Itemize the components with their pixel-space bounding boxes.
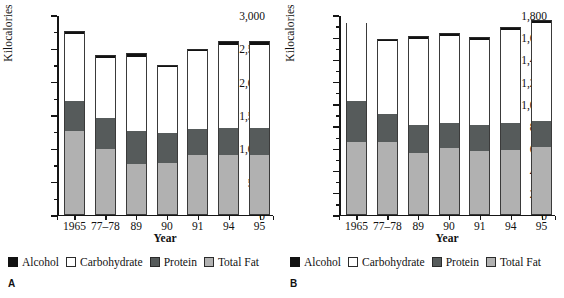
bar-segment-total-fat [64, 131, 85, 214]
y-axis-line-a [57, 16, 59, 216]
legend-swatch-total-fat-icon [486, 257, 496, 267]
y-tick-major [51, 149, 57, 150]
y-tick-minor [336, 182, 340, 183]
bar-segment-total-fat [126, 164, 147, 215]
panel-letter-a: A [8, 278, 15, 289]
y-tick-minor [336, 138, 340, 139]
bar-segment-alcohol [531, 20, 552, 23]
bar-segment-protein [126, 131, 147, 164]
bar-1965 [64, 31, 85, 215]
bar-segment-carbohydrate [346, 23, 367, 101]
x-tick-label: 1965 [63, 220, 86, 232]
x-tick-label: 95 [536, 220, 548, 232]
y-tick-minor [54, 32, 58, 33]
y-tick-minor [54, 165, 58, 166]
bar-segment-alcohol [64, 31, 85, 34]
bar-segment-carbohydrate [469, 40, 490, 125]
bar-segment-carbohydrate [218, 45, 239, 128]
bar-segment-carbohydrate [95, 58, 116, 118]
bar-segment-protein [157, 133, 178, 162]
bar-segment-carbohydrate [500, 30, 521, 124]
y-tick-major [333, 82, 339, 83]
bar-segment-carbohydrate [126, 57, 147, 132]
bar-segment-carbohydrate [64, 34, 85, 101]
bar-91 [187, 49, 208, 215]
legend-swatch-carbohydrate-icon [348, 257, 358, 267]
y-tick-minor [336, 93, 340, 94]
legend-b: Alcohol Carbohydrate Protein Total Fat [290, 256, 541, 268]
legend-swatch-protein-icon [432, 257, 442, 267]
bar-segment-protein [408, 125, 429, 153]
x-tick-label: 89 [130, 220, 142, 232]
y-axis-title-a: Kilocalories [2, 0, 14, 88]
y-tick-major [333, 149, 339, 150]
y-axis-line-b [339, 16, 341, 216]
bar-segment-total-fat [218, 155, 239, 215]
x-tick [57, 216, 58, 220]
bar-segment-protein [218, 128, 239, 155]
legend-a: Alcohol Carbohydrate Protein Total Fat [8, 256, 259, 268]
bar-segment-protein [95, 118, 116, 149]
y-tick-major [51, 182, 57, 183]
y-tick-major [51, 49, 57, 50]
legend-swatch-alcohol-icon [290, 257, 300, 267]
bar-94 [218, 41, 239, 214]
legend-swatch-carbohydrate-icon [66, 257, 76, 267]
y-tick-major [333, 15, 339, 16]
bar-90 [157, 65, 178, 215]
y-tick-minor [336, 49, 340, 50]
legend-item-total-fat-a: Total Fat [204, 256, 259, 268]
bar-segment-protein [377, 114, 398, 142]
bar-77-78 [95, 55, 116, 215]
bar-segment-protein [249, 128, 270, 155]
bar-segment-alcohol [126, 53, 147, 56]
bar-91 [469, 37, 490, 214]
legend-label-total-fat: Total Fat [500, 256, 541, 268]
bar-segment-total-fat [531, 147, 552, 214]
bar-segment-alcohol [500, 27, 521, 30]
legend-item-alcohol-b: Alcohol [290, 256, 341, 268]
y-tick-label: 3,000 [239, 10, 265, 22]
bar-segment-protein [346, 101, 367, 142]
bar-segment-total-fat [157, 163, 178, 215]
legend-swatch-protein-icon [150, 257, 160, 267]
x-tick-label: 94 [223, 220, 235, 232]
y-tick-major [51, 82, 57, 83]
legend-label-alcohol: Alcohol [304, 256, 341, 268]
x-axis-line-a [57, 215, 273, 217]
x-tick-label: 90 [161, 220, 173, 232]
x-axis-title-a: Year [57, 232, 273, 244]
x-tick [273, 216, 274, 220]
y-tick-major [333, 126, 339, 127]
legend-label-protein: Protein [446, 256, 479, 268]
bar-1965 [346, 23, 367, 214]
bar-segment-protein [531, 121, 552, 148]
bar-segment-alcohol [218, 41, 239, 44]
x-tick [339, 216, 340, 220]
bar-segment-protein [64, 101, 85, 131]
bar-94 [500, 27, 521, 215]
bar-89 [408, 36, 429, 214]
bar-segment-alcohol [377, 39, 398, 41]
x-tick-label: 1965 [345, 220, 368, 232]
bar-segment-carbohydrate [187, 51, 208, 129]
x-tick-label: 91 [192, 220, 204, 232]
y-tick-minor [336, 26, 340, 27]
bar-segment-carbohydrate [408, 39, 429, 125]
legend-item-protein-a: Protein [150, 256, 197, 268]
bar-segment-carbohydrate [249, 45, 270, 128]
y-axis-title-b: Kilocalories [284, 0, 296, 88]
x-axis-title-b: Year [339, 232, 555, 244]
x-tick-label: 91 [474, 220, 486, 232]
legend-label-carbohydrate: Carbohydrate [362, 256, 425, 268]
bar-segment-carbohydrate [377, 41, 398, 114]
legend-label-protein: Protein [164, 256, 197, 268]
y-tick-minor [54, 132, 58, 133]
y-tick-minor [336, 115, 340, 116]
x-tick-label: 77–78 [373, 220, 402, 232]
panel-letter-b: B [290, 278, 297, 289]
y-tick-major [333, 171, 339, 172]
panel-b: Kilocalories 02004006008001,0001,2001,40… [282, 0, 564, 298]
bar-segment-total-fat [95, 149, 116, 215]
bar-segment-protein [187, 129, 208, 155]
